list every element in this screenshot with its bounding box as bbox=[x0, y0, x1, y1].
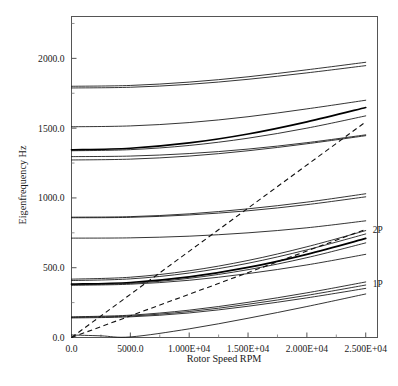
x-tick-label: 1.500E+04 bbox=[227, 343, 270, 354]
plot-frame bbox=[72, 17, 378, 338]
curve-mode-1 bbox=[72, 282, 366, 317]
x-axis-tick-labels: 0.05000.01.000E+041.500E+042.000E+042.50… bbox=[66, 343, 388, 354]
y-tick-label: 2000.0 bbox=[38, 53, 65, 64]
annotation-1p: 1P bbox=[373, 279, 383, 289]
chart-canvas: 0.05000.01.000E+041.500E+042.000E+042.50… bbox=[0, 0, 398, 386]
x-tick-label: 0.0 bbox=[66, 343, 78, 354]
x-tick-label: 2.500E+04 bbox=[345, 343, 388, 354]
y-axis-tick-labels: 0.0500.01000.01500.02000.0 bbox=[38, 53, 65, 343]
x-axis-title: Rotor Speed RPM bbox=[187, 353, 262, 364]
x-tick-label: 5000.0 bbox=[117, 343, 144, 354]
y-axis-title: Eigenfrequency Hz bbox=[17, 145, 28, 224]
y-tick-label: 0.0 bbox=[53, 332, 65, 343]
excitation-order-lines bbox=[72, 122, 366, 338]
curve-mode-13 bbox=[72, 108, 366, 150]
x-tick-label: 2.000E+04 bbox=[286, 343, 329, 354]
y-tick-label: 500.0 bbox=[43, 262, 65, 273]
curve-mode-5 bbox=[72, 234, 366, 281]
y-tick-label: 1500.0 bbox=[38, 123, 65, 134]
annotation-2p: 2P bbox=[373, 225, 383, 235]
curve-mode-15 bbox=[72, 66, 366, 88]
curve-mode-14 bbox=[72, 100, 366, 127]
curve-excitation-2P bbox=[72, 122, 366, 338]
campbell-diagram-figure: 0.05000.01.000E+041.500E+042.000E+042.50… bbox=[0, 0, 398, 386]
curve-mode-9 bbox=[72, 194, 366, 217]
x-tick-label: 1.000E+04 bbox=[168, 343, 211, 354]
curve-mode-3 bbox=[72, 243, 366, 285]
y-tick-label: 1000.0 bbox=[38, 192, 65, 203]
curve-mode-12 bbox=[72, 116, 366, 151]
curve-mode-2 bbox=[72, 254, 366, 285]
eigenfrequency-curves bbox=[72, 62, 366, 337]
curve-mode-16 bbox=[72, 62, 366, 86]
